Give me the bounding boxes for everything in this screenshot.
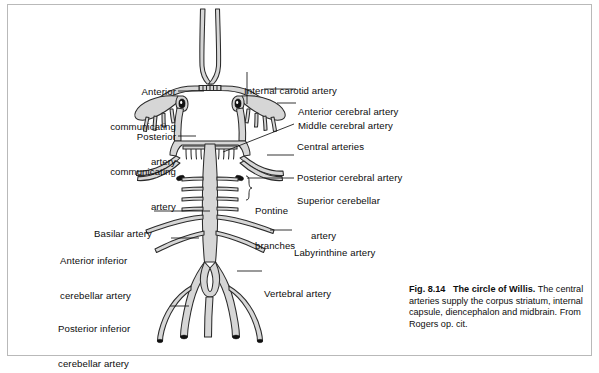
label-line: communicating	[58, 166, 176, 178]
caption-title: The circle of Willis.	[453, 284, 535, 294]
basilar-artery	[202, 144, 217, 262]
leader-central-arteries	[223, 124, 294, 152]
label-posterior-inferior-cerebellar-artery: Posterior inferior cerebellar artery	[58, 300, 172, 373]
caption-figure-number: Fig. 8.14	[409, 284, 445, 294]
label-line: branches	[255, 240, 295, 252]
figure-caption: Fig. 8.14 The circle of Willis. The cent…	[409, 284, 585, 331]
anterior-communicating-artery-vessel	[199, 86, 221, 91]
label-line: Anterior	[58, 86, 176, 98]
label-line: Labyrinthine artery	[294, 247, 375, 259]
label-pontine-branches: Pontine branches	[255, 182, 295, 275]
label-line: Anterior inferior	[60, 255, 172, 267]
pontine-branches-left	[182, 177, 203, 211]
label-line: Superior cerebellar	[297, 195, 380, 207]
anterior-cerebral-ascending-vessels	[200, 9, 221, 84]
vertebral-union-loop	[200, 262, 219, 337]
label-vertebral-artery: Vertebral artery	[264, 265, 331, 323]
label-line: Vertebral artery	[264, 288, 331, 300]
pontine-branches-right	[217, 177, 238, 211]
label-line: Pontine	[255, 205, 295, 217]
label-line: Posterior	[58, 131, 176, 143]
pontine-brace	[246, 176, 252, 200]
label-line: cerebellar artery	[58, 358, 172, 370]
label-line: Posterior inferior	[58, 323, 172, 335]
